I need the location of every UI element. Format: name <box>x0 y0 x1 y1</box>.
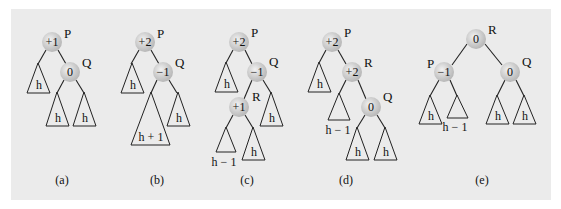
node-label: P <box>157 26 164 41</box>
caption: (c) <box>240 173 253 187</box>
subtree-label: h <box>495 109 501 123</box>
subtree-label: h − 1 <box>326 123 351 137</box>
node-label: Q <box>269 54 279 69</box>
subtree-label: h <box>55 111 61 125</box>
balance-factor: −1 <box>251 65 264 79</box>
balance-factor: +1 <box>233 100 246 114</box>
subtree-label: h <box>36 78 42 92</box>
balance-factor: 0 <box>507 65 513 79</box>
caption: (a) <box>55 173 68 187</box>
subtree-label: h <box>224 77 230 91</box>
balance-factor: 0 <box>67 65 73 79</box>
panel-b: h h + 1 h +2 P −1 Q (b) <box>121 26 190 187</box>
node-label: P <box>64 26 71 41</box>
subtree-label: h − 1 <box>212 155 237 169</box>
node-label: Q <box>175 55 185 70</box>
node-label: Q <box>522 54 532 69</box>
subtree-label: h <box>176 111 182 125</box>
subtree-label: h <box>317 77 323 91</box>
balance-factor: +2 <box>233 35 246 49</box>
node-label: Q <box>383 89 393 104</box>
balance-factor: −1 <box>438 65 451 79</box>
balance-factor: 0 <box>473 32 479 46</box>
subtree-triangle <box>328 93 350 120</box>
subtree-triangle <box>216 127 236 152</box>
balance-factor: +1 <box>46 35 59 49</box>
subtree-label: h <box>130 78 136 92</box>
subtree-triangle <box>447 95 468 118</box>
node-label: P <box>344 25 351 40</box>
subtree-label: h + 1 <box>139 130 164 144</box>
panel-c: h h h − 1 h +2 P −1 Q +1 R (c) <box>212 25 283 187</box>
balance-factor: −1 <box>157 65 170 79</box>
caption: (e) <box>475 173 488 187</box>
node-label: Q <box>82 55 92 70</box>
panel-d: h h − 1 h h +2 P +2 R 0 Q (d) <box>308 25 397 187</box>
subtree-label: h <box>522 109 528 123</box>
caption: (d) <box>339 173 353 187</box>
balance-factor: +2 <box>346 65 359 79</box>
node-label: P <box>251 25 258 40</box>
balance-factor: +2 <box>326 35 339 49</box>
balance-factor: +2 <box>139 35 152 49</box>
node-label: R <box>252 89 261 104</box>
node-label: R <box>488 22 497 37</box>
subtree-label: h <box>251 145 257 159</box>
avl-rotation-diagram: h h h +1 P 0 Q (a) h h + 1 h +2 P −1 Q (… <box>0 0 561 209</box>
balance-factor: 0 <box>368 100 374 114</box>
node-label: R <box>364 55 373 70</box>
panel-e: h h − 1 h h 0 R −1 P 0 Q (e) <box>419 22 536 187</box>
subtree-label: h <box>82 111 88 125</box>
panel-a: h h h +1 P 0 Q (a) <box>27 26 96 187</box>
subtree-label: h <box>355 145 361 159</box>
subtree-label: h <box>269 111 275 125</box>
subtree-label: h <box>428 109 434 123</box>
caption: (b) <box>150 173 164 187</box>
subtree-label: h − 1 <box>443 120 468 134</box>
subtree-label: h <box>383 145 389 159</box>
node-label: P <box>427 56 434 71</box>
